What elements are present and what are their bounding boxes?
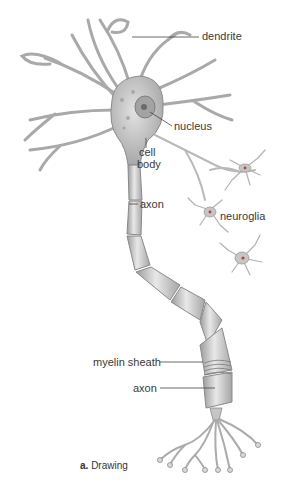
label-cell-body-line2: body bbox=[137, 158, 161, 170]
caption-text: Drawing bbox=[91, 460, 128, 471]
label-axon-lower: axon bbox=[133, 382, 157, 394]
caption-letter: a. bbox=[80, 460, 88, 471]
label-axon-upper: axon bbox=[140, 198, 164, 210]
label-cell-body-line1: cell bbox=[139, 146, 156, 158]
figure-caption: a. Drawing bbox=[80, 460, 128, 471]
label-nucleus: nucleus bbox=[174, 120, 212, 132]
label-dendrite: dendrite bbox=[202, 30, 242, 42]
neuron-illustration bbox=[0, 0, 290, 490]
axon-terminals bbox=[160, 419, 258, 470]
label-myelin-sheath: myelin sheath bbox=[93, 356, 161, 368]
label-neuroglia: neuroglia bbox=[220, 210, 265, 222]
